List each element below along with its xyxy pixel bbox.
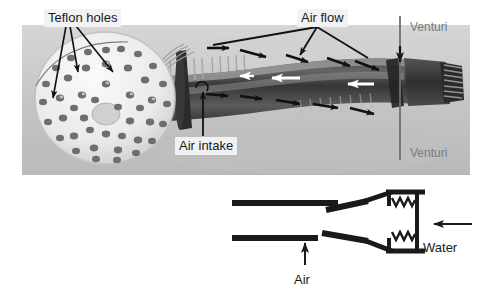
label-diagram-air: Air bbox=[294, 272, 310, 287]
spring-symbol-top bbox=[392, 198, 415, 206]
label-air-intake: Air intake bbox=[175, 137, 237, 155]
figure-root: Teflon holes Air flow Air intake Venturi… bbox=[0, 0, 489, 302]
label-teflon-holes: Teflon holes bbox=[44, 9, 121, 27]
label-air-flow: Air flow bbox=[297, 9, 348, 27]
label-venturi-bottom: Venturi bbox=[410, 146, 447, 160]
threaded-connector bbox=[404, 58, 464, 106]
spring-symbol-bottom bbox=[392, 232, 415, 240]
label-diagram-water: Water bbox=[423, 240, 457, 255]
label-venturi-top: Venturi bbox=[410, 20, 447, 34]
showerhead-venturi-photo bbox=[0, 16, 470, 186]
showerhead-face bbox=[35, 32, 175, 164]
